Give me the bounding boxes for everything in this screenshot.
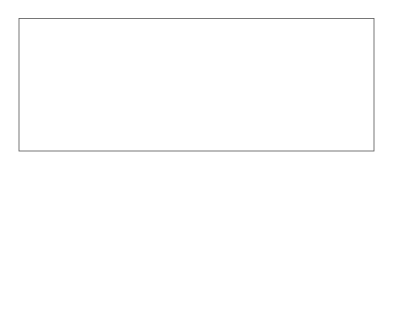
- figure: [0, 0, 394, 317]
- continuous-panel: [19, 19, 374, 152]
- continuous-panel-frame: [19, 19, 374, 152]
